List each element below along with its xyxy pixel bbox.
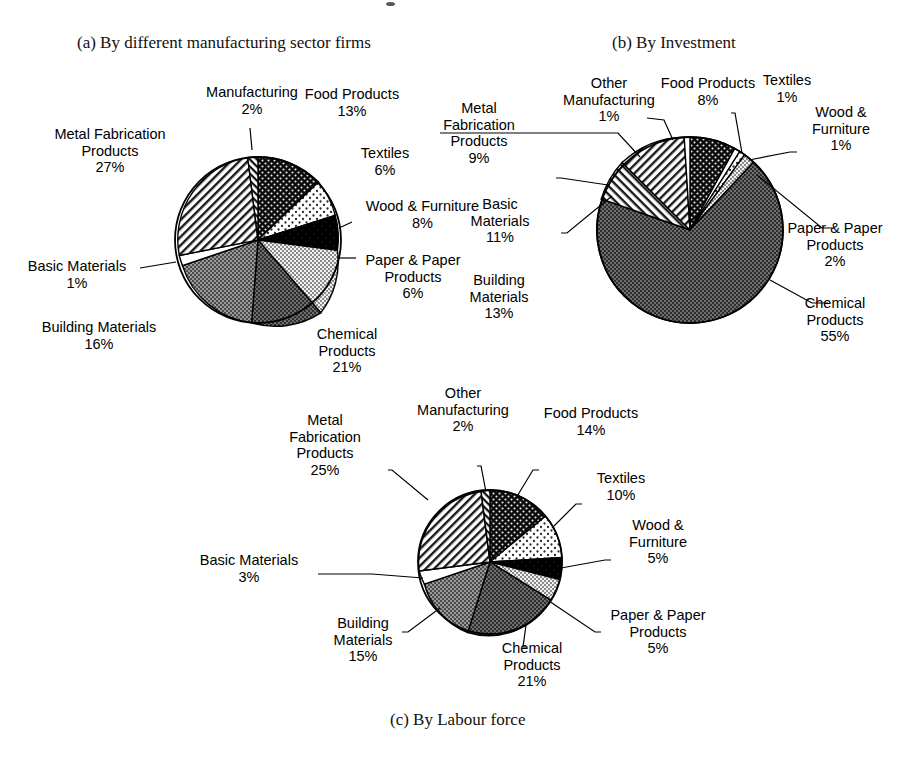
- pie-c-slices: [418, 490, 562, 636]
- pie-chart-c: [0, 0, 918, 759]
- label-c-metal-fabrication: Metal Fabrication Products 25%: [265, 412, 385, 478]
- label-c-chemical-products: Chemical Products 21%: [487, 640, 577, 690]
- label-c-other-manufacturing: Other Manufacturing 2%: [398, 385, 528, 435]
- label-c-wood-furniture: Wood & Furniture 5%: [612, 517, 704, 567]
- label-c-building-materials: Building Materials 15%: [318, 615, 408, 665]
- label-c-food-products: Food Products 14%: [535, 405, 647, 438]
- figure-canvas: (a) By different manufacturing sector fi…: [0, 0, 918, 759]
- label-c-paper-products: Paper & Paper Products 5%: [602, 607, 714, 657]
- slice-metal-fabrication[interactable]: [419, 492, 490, 572]
- label-c-basic-materials: Basic Materials 3%: [182, 552, 316, 585]
- label-c-textiles: Textiles 10%: [584, 470, 658, 503]
